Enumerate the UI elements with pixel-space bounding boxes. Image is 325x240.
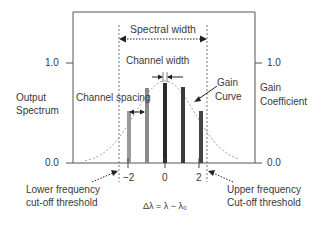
x-tick-label-minus2: −2: [123, 172, 134, 183]
channel-bar: [181, 87, 185, 163]
left-tick-label-bottom: 0.0: [45, 157, 59, 168]
spectral-arrowhead-left: [119, 36, 126, 43]
channel-bar: [199, 111, 203, 163]
x-tick-label-2: 2: [196, 172, 202, 183]
channel-width-arrowhead-right: [167, 75, 172, 80]
x-tick-label-0: 0: [162, 172, 168, 183]
gain-coefficient-label-1: Gain: [260, 82, 281, 93]
upper-threshold-label-1: Upper frequency: [227, 184, 301, 195]
channel-bar: [163, 83, 167, 163]
lower-threshold-pointer: [92, 173, 113, 182]
spectral-arrowhead-right: [200, 36, 207, 43]
gain-curve-pointer-head: [194, 96, 201, 102]
upper-threshold-arrowhead: [208, 170, 215, 176]
upper-threshold-pointer: [213, 173, 233, 182]
channel-width-label: Channel width: [126, 55, 189, 66]
channel-bar: [127, 111, 131, 163]
lower-threshold-label-2: cut-off threshold: [26, 197, 98, 208]
gain-coefficient-label-2: Coefficient: [260, 96, 307, 107]
spectral-width-label: Spectral width: [130, 24, 196, 35]
output-spectrum-label-1: Output: [16, 92, 46, 103]
x-axis-label: Δλ = λ − λ₀: [143, 201, 187, 212]
channel-spacing-label: Channel spacing: [76, 92, 151, 103]
gain-curve-label-2: Curve: [215, 91, 242, 102]
upper-threshold-label-2: Cut-off threshold: [227, 197, 301, 208]
gain-curve-label-1: Gain: [217, 77, 238, 88]
right-tick-label-top: 1.0: [267, 57, 281, 68]
channel-width-arrowhead-left: [158, 75, 163, 80]
lower-threshold-label-1: Lower frequency: [26, 184, 100, 195]
channel-spacing-arrowhead-right: [140, 110, 145, 115]
lower-threshold-arrowhead: [111, 170, 118, 176]
output-spectrum-label-2: Spectrum: [16, 105, 59, 116]
left-tick-label-top: 1.0: [45, 57, 59, 68]
right-tick-label-bottom: 0.0: [267, 157, 281, 168]
